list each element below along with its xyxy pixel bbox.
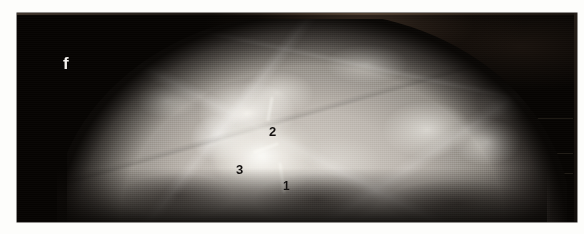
mammogram-image: f 2 3 1 xyxy=(17,13,577,222)
film-right-edge xyxy=(574,13,577,222)
figure-panel: f 2 3 1 xyxy=(0,0,584,234)
film-top-edge xyxy=(17,13,577,15)
annotation-marker-1: 1 xyxy=(283,180,290,192)
breast-tissue-dome xyxy=(67,19,567,222)
annotation-marker-2: 2 xyxy=(269,125,276,138)
tissue-base-density xyxy=(67,19,567,222)
annotation-marker-3: 3 xyxy=(236,163,243,176)
panel-letter-label: f xyxy=(63,55,69,72)
